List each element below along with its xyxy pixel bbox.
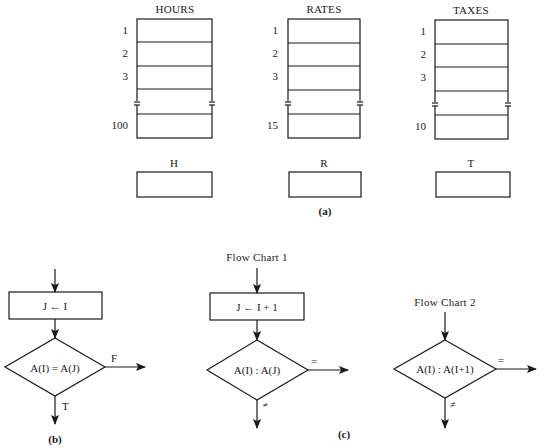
array-title-rates: RATES: [306, 3, 341, 15]
array-index: 2: [396, 48, 426, 60]
branch-label-equal: =: [311, 355, 317, 367]
array-index: 1: [248, 24, 278, 36]
scalar-box-h: [137, 172, 212, 197]
array-title-hours: HOURS: [156, 3, 195, 15]
flow-chart-1-title: Flow Chart 1: [226, 251, 288, 263]
scalar-box-t: [436, 172, 510, 197]
scalar-label-r: R: [320, 157, 328, 169]
array-index: 1: [396, 25, 426, 37]
branch-label-not-equal: ≠: [450, 399, 456, 410]
decision-text-b: A(I) = A(J): [30, 362, 80, 374]
process-text-b: J ← I: [43, 300, 67, 312]
array-index: 10: [396, 120, 426, 132]
flow-chart-2-title: Flow Chart 2: [414, 296, 476, 308]
array-index: 15: [248, 119, 278, 131]
array-index: 2: [98, 47, 128, 59]
hours-array-grid: [134, 19, 215, 138]
branch-label-not-equal: ≠: [263, 400, 268, 410]
scalar-box-r: [289, 172, 361, 197]
array-index: 1: [98, 24, 128, 36]
branch-label-false: F: [111, 352, 117, 364]
decision-text-c2: A(I) : A(I+1): [416, 363, 474, 375]
array-index: 3: [248, 70, 278, 82]
caption-b: (b): [48, 433, 61, 445]
scalar-label-h: H: [170, 157, 178, 169]
rates-array-grid: [285, 19, 363, 138]
taxes-array-grid: [432, 20, 511, 139]
scalar-label-t: T: [467, 157, 474, 169]
branch-label-equal: =: [498, 354, 504, 366]
array-index: 100: [98, 119, 128, 131]
array-index: 3: [396, 71, 426, 83]
caption-a: (a): [319, 205, 332, 217]
array-index: 2: [248, 47, 278, 59]
decision-text-c1: A(I) : A(J): [234, 364, 280, 376]
branch-label-true: T: [62, 400, 69, 412]
array-title-taxes: TAXES: [453, 4, 489, 16]
caption-c: (c): [338, 428, 350, 440]
process-text-c1: J ← I + 1: [236, 301, 278, 313]
array-index: 3: [98, 70, 128, 82]
diagram-canvas: [0, 0, 548, 448]
